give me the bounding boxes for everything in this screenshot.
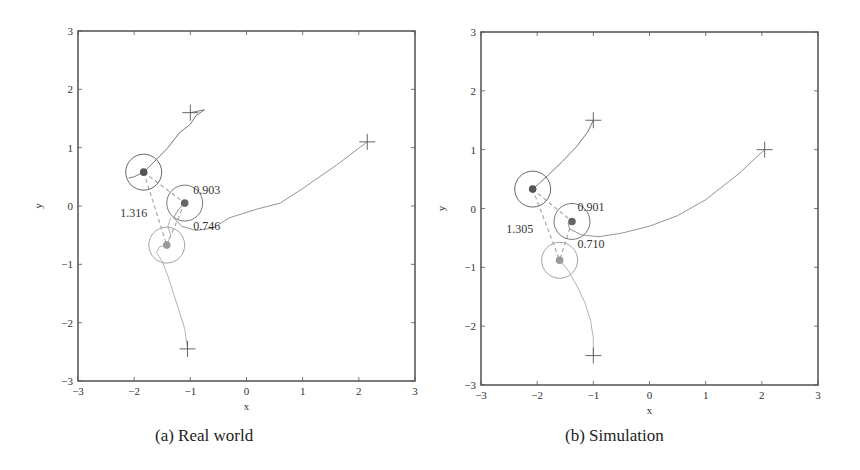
x-tick-label: 2 [356, 385, 362, 397]
y-tick-label: 1 [471, 144, 477, 156]
y-tick-label: −2 [464, 320, 476, 332]
x-tick-label: −3 [72, 385, 84, 397]
agent-dot [529, 185, 537, 193]
y-tick-label: −2 [61, 317, 73, 329]
plot-frame [481, 32, 818, 385]
agent-dot [140, 168, 148, 176]
x-tick-label: −1 [184, 385, 196, 397]
x-tick-label: −1 [587, 389, 599, 401]
y-tick-label: −1 [464, 261, 476, 273]
agent-dot [568, 218, 576, 226]
x-axis-label: x [647, 404, 653, 416]
trajectory-line [560, 260, 594, 355]
distance-label: 1.305 [506, 222, 533, 236]
distance-label: 0.710 [578, 237, 605, 251]
y-tick-label: 2 [471, 85, 477, 97]
y-tick-label: 2 [68, 83, 74, 95]
y-tick-label: −1 [61, 258, 73, 270]
figure-canvas: −3−2−10123−3−2−10123xy0.9031.3160.746 −3… [0, 0, 860, 470]
y-tick-label: −3 [61, 375, 73, 387]
agent-dot [163, 241, 171, 249]
distance-label: 1.316 [120, 206, 147, 220]
x-tick-label: 2 [759, 389, 765, 401]
y-tick-label: 1 [68, 142, 74, 154]
x-tick-label: 1 [703, 389, 709, 401]
agent-dot [181, 199, 189, 207]
distance-line [144, 172, 167, 245]
distance-line [144, 172, 185, 203]
distance-line [560, 221, 572, 260]
distance-label: 0.746 [193, 219, 220, 233]
plot-real-world: −3−2−10123−3−2−10123xy0.9031.3160.746 [32, 25, 418, 412]
y-axis-label: y [32, 203, 44, 209]
trajectory-line [129, 110, 205, 178]
distance-label: 0.901 [578, 200, 605, 214]
trajectory-line [533, 120, 594, 189]
caption-real-world: (a) Real world [155, 426, 253, 446]
plot-simulation: −3−2−10123−3−2−10123xy0.9011.3050.710 [435, 26, 821, 416]
distance-label: 0.903 [193, 183, 220, 197]
x-tick-label: 0 [244, 385, 250, 397]
agent-dot [556, 256, 564, 264]
x-tick-label: 3 [412, 385, 418, 397]
y-tick-label: 3 [68, 25, 74, 37]
y-axis-label: y [435, 205, 447, 211]
x-tick-label: 1 [300, 385, 306, 397]
x-tick-label: −2 [128, 385, 140, 397]
caption-simulation: (b) Simulation [565, 426, 664, 446]
x-tick-label: 0 [647, 389, 653, 401]
y-tick-label: 0 [68, 200, 74, 212]
x-tick-label: −3 [475, 389, 487, 401]
y-tick-label: −3 [464, 379, 476, 391]
x-tick-label: −2 [531, 389, 543, 401]
trajectory-line [568, 150, 765, 237]
x-axis-label: x [244, 400, 250, 412]
y-tick-label: 0 [471, 203, 477, 215]
y-tick-label: 3 [471, 26, 477, 38]
x-tick-label: 3 [815, 389, 821, 401]
